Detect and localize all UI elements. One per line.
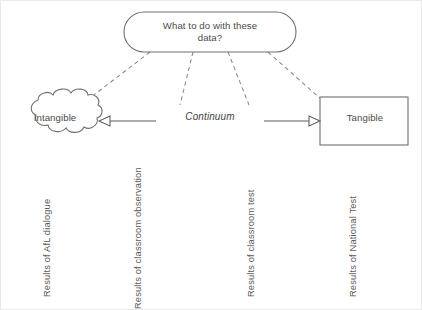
page-frame [1,1,422,310]
continuum-arrowhead-left [99,116,110,126]
diagram-graphics [0,0,422,310]
tangible-node-label: Tangible [322,112,408,124]
caption-afl-dialogue: Results of AfL dialogue [42,199,52,297]
caption-classroom-test: Results of classroom test [246,189,256,297]
continuum-label: Continuum [156,110,264,124]
dashed-link-to-tangible [268,52,322,100]
caption-national-test: Results of National Test [348,196,358,297]
intangible-node-shape [31,89,102,132]
question-node-label: What to do with these data? [131,20,289,44]
intangible-node-label: Intangible [16,112,94,124]
dashed-link-to-intangible [86,52,150,101]
diagram-canvas: What to do with these data? Intangible T… [0,0,422,310]
caption-classroom-observation: Results of classroom observation [133,167,143,309]
dashed-link-middle-right [228,52,249,105]
dashed-link-middle-left [180,52,193,105]
continuum-arrowhead-right [309,116,320,126]
